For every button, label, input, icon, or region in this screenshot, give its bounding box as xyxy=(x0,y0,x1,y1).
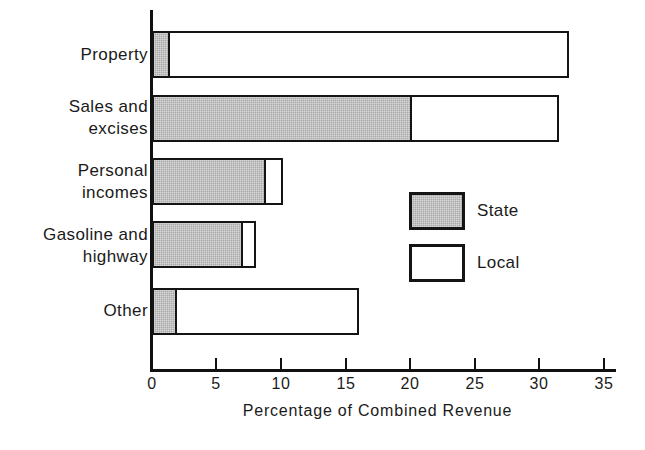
bar-segment-local xyxy=(264,158,283,205)
local-swatch-icon xyxy=(409,244,465,282)
category-label-personal-incomes: Personal incomes xyxy=(0,160,148,204)
legend-item-state: State xyxy=(409,192,520,230)
x-tick-label-15: 15 xyxy=(326,375,366,393)
category-label-gasoline-and-highway: Gasoline and highway xyxy=(0,224,148,268)
x-tick-label-0: 0 xyxy=(132,375,172,393)
x-tick-15 xyxy=(345,358,347,370)
category-label-sales-and-excises: Sales and excises xyxy=(0,96,148,140)
x-tick-25 xyxy=(474,358,476,370)
bar-sales-and-excises xyxy=(152,95,559,142)
bar-segment-local xyxy=(168,31,570,78)
state-swatch-icon xyxy=(409,192,465,230)
bar-segment-local xyxy=(241,221,256,268)
x-tick-0 xyxy=(151,358,153,370)
bar-segment-state xyxy=(152,158,267,205)
category-label-line: Sales and xyxy=(0,96,148,118)
x-tick-20 xyxy=(409,358,411,370)
bar-segment-local xyxy=(175,288,359,335)
x-tick-label-10: 10 xyxy=(261,375,301,393)
x-tick-35 xyxy=(603,358,605,370)
x-axis-line xyxy=(150,369,616,372)
bar-segment-state xyxy=(152,95,412,142)
legend-label-local: Local xyxy=(477,253,520,273)
category-label-other: Other xyxy=(0,300,148,322)
horizontal-stacked-bar-chart: 0 5 10 15 20 25 30 35 Property Sales and… xyxy=(0,0,645,450)
category-label-line: Property xyxy=(0,44,148,66)
category-label-property: Property xyxy=(0,44,148,66)
x-tick-10 xyxy=(280,358,282,370)
category-label-line: highway xyxy=(0,246,148,268)
x-tick-label-35: 35 xyxy=(584,375,624,393)
x-axis-title: Percentage of Combined Revenue xyxy=(152,402,603,420)
x-tick-label-20: 20 xyxy=(390,375,430,393)
x-tick-label-30: 30 xyxy=(519,375,559,393)
bar-other xyxy=(152,288,359,335)
chart-legend: State Local xyxy=(409,192,520,296)
x-tick-30 xyxy=(538,358,540,370)
bar-segment-state xyxy=(152,288,178,335)
bar-personal-incomes xyxy=(152,158,283,205)
legend-label-state: State xyxy=(477,201,519,221)
category-label-line: excises xyxy=(0,118,148,140)
category-label-line: incomes xyxy=(0,182,148,204)
category-label-line: Other xyxy=(0,300,148,322)
bar-property xyxy=(152,31,569,78)
legend-item-local: Local xyxy=(409,244,520,282)
bar-segment-state xyxy=(152,221,243,268)
x-tick-label-25: 25 xyxy=(455,375,495,393)
x-tick-label-5: 5 xyxy=(196,375,236,393)
category-label-line: Gasoline and xyxy=(0,224,148,246)
bar-segment-local xyxy=(410,95,559,142)
bar-gasoline-and-highway xyxy=(152,221,256,268)
x-tick-5 xyxy=(215,358,217,370)
category-label-line: Personal xyxy=(0,160,148,182)
